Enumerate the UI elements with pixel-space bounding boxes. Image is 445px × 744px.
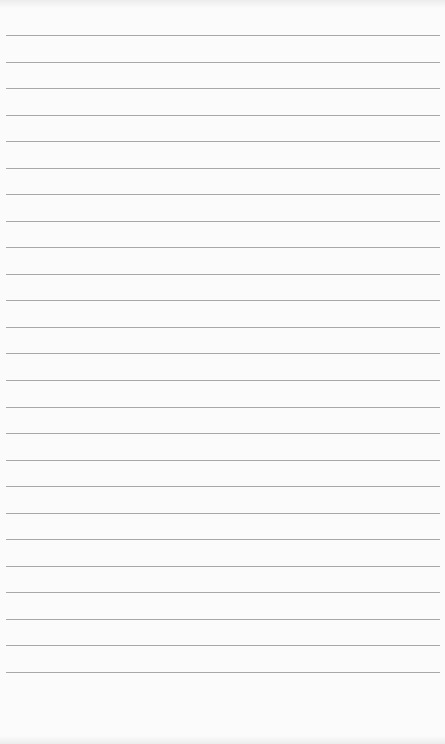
ruled-line	[6, 62, 440, 63]
lined-paper	[0, 0, 445, 744]
paper-bottom-edge	[0, 736, 445, 744]
ruled-line	[6, 141, 440, 142]
ruled-line	[6, 486, 440, 487]
ruled-line	[6, 327, 440, 328]
ruled-line	[6, 115, 440, 116]
ruled-line	[6, 300, 440, 301]
ruled-line	[6, 513, 440, 514]
ruled-line	[6, 619, 440, 620]
ruled-line	[6, 566, 440, 567]
ruled-line	[6, 433, 440, 434]
ruled-line	[6, 274, 440, 275]
ruled-line	[6, 407, 440, 408]
ruled-line	[6, 35, 440, 36]
ruled-line	[6, 460, 440, 461]
ruled-line	[6, 168, 440, 169]
ruled-line	[6, 380, 440, 381]
ruled-line	[6, 194, 440, 195]
ruled-line	[6, 353, 440, 354]
ruled-line	[6, 672, 440, 673]
ruled-line	[6, 247, 440, 248]
ruled-line	[6, 645, 440, 646]
ruled-line	[6, 539, 440, 540]
ruled-line	[6, 221, 440, 222]
ruled-line	[6, 592, 440, 593]
ruled-line	[6, 88, 440, 89]
